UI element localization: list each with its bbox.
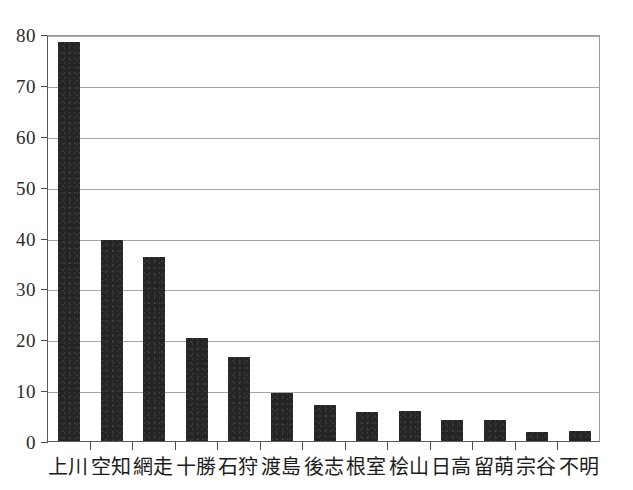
bar xyxy=(143,257,165,441)
bar xyxy=(228,357,250,441)
x-tick-mark xyxy=(557,442,558,450)
x-axis-ticks xyxy=(47,442,600,452)
bar xyxy=(526,432,548,441)
x-tick-label: 不明 xyxy=(559,452,599,482)
x-tick-label: 渡島 xyxy=(261,452,301,482)
x-tick-label: 石狩 xyxy=(218,452,258,482)
x-tick-mark xyxy=(387,442,388,450)
x-tick-label: 空知 xyxy=(91,452,131,482)
plot-area xyxy=(47,35,600,442)
y-tick-label: 20 xyxy=(16,331,36,350)
bar xyxy=(186,338,208,441)
x-tick-mark xyxy=(345,442,346,450)
bar-series xyxy=(48,36,599,441)
x-tick-label: 根室 xyxy=(346,452,386,482)
y-tick-label: 0 xyxy=(26,433,36,452)
x-tick-label: 後志 xyxy=(304,452,344,482)
x-tick-mark xyxy=(90,442,91,450)
x-tick-label: 宗谷 xyxy=(516,452,556,482)
bar xyxy=(441,420,463,441)
bar xyxy=(271,393,293,441)
bar xyxy=(101,240,123,441)
bar xyxy=(399,411,421,441)
x-tick-mark xyxy=(175,442,176,450)
x-tick-mark xyxy=(472,442,473,450)
bar xyxy=(484,420,506,441)
x-tick-mark xyxy=(302,442,303,450)
y-tick-label: 30 xyxy=(16,280,36,299)
x-tick-label: 桧山 xyxy=(389,452,429,482)
bar-chart-figure: 01020304050607080 上川空知網走十勝石狩渡島後志根室桧山日高留萌… xyxy=(0,0,633,490)
x-tick-label: 上川 xyxy=(48,452,88,482)
y-tick-label: 60 xyxy=(16,127,36,146)
y-tick-label: 40 xyxy=(16,229,36,248)
bar xyxy=(569,431,591,441)
y-tick-label: 80 xyxy=(16,26,36,45)
x-tick-mark xyxy=(260,442,261,450)
bar xyxy=(58,42,80,441)
x-tick-mark xyxy=(515,442,516,450)
bar xyxy=(314,405,336,441)
x-tick-mark xyxy=(217,442,218,450)
y-tick-label: 70 xyxy=(16,76,36,95)
x-tick-label: 日高 xyxy=(431,452,471,482)
y-tick-label: 50 xyxy=(16,178,36,197)
x-axis: 上川空知網走十勝石狩渡島後志根室桧山日高留萌宗谷不明 xyxy=(47,452,600,490)
bar xyxy=(356,412,378,441)
y-tick-label: 10 xyxy=(16,382,36,401)
x-tick-label: 網走 xyxy=(133,452,173,482)
x-tick-label: 留萌 xyxy=(474,452,514,482)
x-tick-mark xyxy=(132,442,133,450)
x-tick-label: 十勝 xyxy=(176,452,216,482)
y-axis: 01020304050607080 xyxy=(0,0,47,490)
x-tick-mark xyxy=(430,442,431,450)
